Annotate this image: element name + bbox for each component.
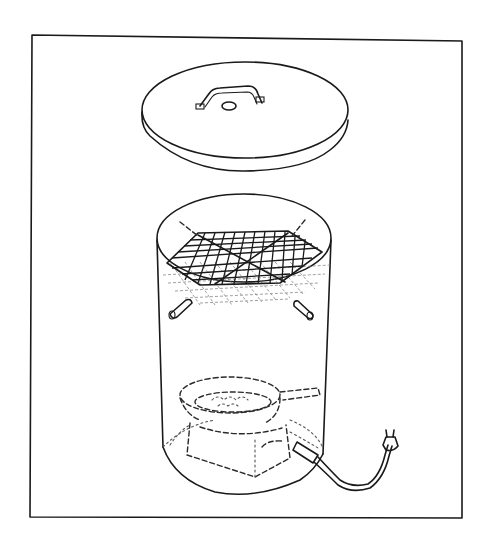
grill-rack [163,220,330,305]
lid [142,62,348,171]
power-cord [293,430,398,490]
smoker-illustration [0,0,490,550]
pan-with-wood-chips [180,377,320,423]
lid-handle-icon [200,86,262,106]
rack-pegs [169,299,313,320]
hot-plate [170,423,318,477]
